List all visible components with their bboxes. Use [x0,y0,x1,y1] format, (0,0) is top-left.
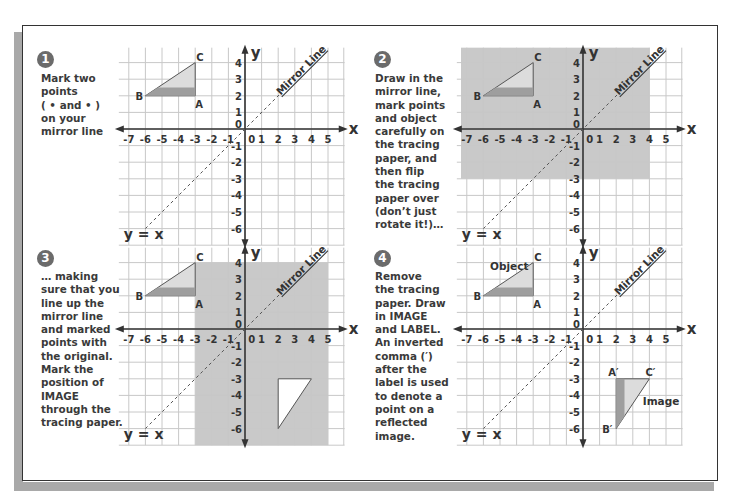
x-tick-label: -6 [140,134,151,145]
vertex-label-c: C [196,252,203,263]
x-tick-label: 4 [308,134,315,145]
x-tick-label: 1 [596,334,603,345]
y-tick-label: -2 [231,157,242,168]
x-tick-label: 0 [586,334,593,345]
y-tick-label: -2 [569,357,580,368]
y-tick-label: 4 [235,58,242,69]
y-axis-arrow-up-icon [242,245,249,254]
x-tick-label: 3 [629,334,636,345]
x-axis-arrow-left-icon [115,326,124,333]
x-tick-label: 4 [646,334,653,345]
x-tick-label: -4 [511,334,522,345]
panel-2: 2 Draw in the mirror line, mark points a… [360,26,698,250]
y-tick-label: 4 [573,258,580,269]
x-axis-label: x [687,120,697,138]
vertex-label-b: B [135,291,143,302]
vertex-label-a: A [195,99,203,110]
vertex-label-c: C [196,52,203,63]
vertex-label-b: B [473,291,481,302]
y-tick-label: -4 [569,190,580,201]
y-tick-label: 2 [235,291,242,302]
x-tick-label: -7 [461,134,472,145]
x-tick-label: 2 [613,334,620,345]
x-tick-label: 2 [275,334,282,345]
x-tick-label: -2 [544,334,555,345]
y-tick-label: -5 [231,207,242,218]
coordinate-graph: xy-7-6-5-4-3-2-101234543210-1-2-3-4-5-6M… [22,226,360,450]
y-axis-label: y [589,44,599,62]
equation-label: y = x [462,426,502,442]
y-tick-label: -4 [231,190,242,201]
x-tick-label: 0 [248,134,255,145]
x-tick-label: 2 [275,134,282,145]
vertex-label-b: B [135,91,143,102]
y-tick-label: -3 [569,174,580,185]
y-tick-label: -3 [231,374,242,385]
x-tick-label: -3 [190,334,201,345]
x-tick-label: -4 [173,334,184,345]
object-triangle-shading [145,288,195,296]
vertex-label-b: B [473,91,481,102]
x-tick-label: -3 [190,134,201,145]
y-tick-label: -3 [231,174,242,185]
y-tick-label: 0 [573,319,580,330]
y-tick-label: -3 [569,374,580,385]
x-tick-label: -7 [123,334,134,345]
x-tick-label: -3 [528,134,539,145]
y-tick-label: 1 [573,107,580,118]
y-tick-label: 1 [235,107,242,118]
y-tick-label: 0 [573,119,580,130]
vertex-label-c: C [534,252,541,263]
vertex-label-a: A [533,99,541,110]
y-tick-label: 0 [235,119,242,130]
y-tick-label: -2 [569,157,580,168]
x-tick-label: -4 [511,134,522,145]
x-tick-label: 4 [646,134,653,145]
x-tick-label: 3 [291,334,298,345]
x-tick-label: 1 [258,134,265,145]
equation-label: y = x [124,426,164,442]
y-tick-label: -1 [231,341,242,352]
y-tick-label: 4 [573,58,580,69]
y-tick-label: -1 [569,141,580,152]
y-tick-label: 2 [573,291,580,302]
panel-3: 3 … making sure that you line up the mir… [22,250,360,474]
y-tick-label: 3 [573,274,580,285]
y-tick-label: -6 [231,424,242,435]
frame-shadow-bottom [14,482,714,491]
x-tick-label: 5 [663,134,670,145]
x-tick-label: 2 [613,134,620,145]
y-tick-label: -4 [231,390,242,401]
mirror-line-label: Mirror Line [274,43,329,98]
y-tick-label: 4 [235,258,242,269]
x-tick-label: -6 [478,134,489,145]
x-tick-label: 1 [596,134,603,145]
y-tick-label: -4 [569,390,580,401]
object-triangle-shading [145,88,195,96]
y-tick-label: 3 [235,74,242,85]
y-axis-label: y [589,244,599,262]
y-tick-label: 0 [235,319,242,330]
y-tick-label: -1 [569,341,580,352]
x-tick-label: -6 [478,334,489,345]
y-tick-label: 1 [573,307,580,318]
panel-1: 1 Mark two points ( • and • ) on your mi… [22,26,360,250]
y-tick-label: -6 [569,424,580,435]
x-axis-arrow-left-icon [453,326,462,333]
mirror-line-label: Mirror Line [612,243,667,298]
y-axis-label: y [251,244,261,262]
x-tick-label: -5 [156,334,167,345]
y-axis-label: y [251,44,261,62]
y-tick-label: -5 [569,207,580,218]
x-tick-label: 5 [325,334,332,345]
vertex-label-c-prime: C′ [645,367,655,378]
vertex-label-a: A [195,299,203,310]
vertex-label-a: A [533,299,541,310]
x-tick-label: -6 [140,334,151,345]
x-tick-label: 4 [308,334,315,345]
y-tick-label: -5 [569,407,580,418]
x-tick-label: -2 [206,134,217,145]
x-tick-label: 0 [586,134,593,145]
y-tick-label: 1 [235,307,242,318]
x-tick-label: 0 [248,334,255,345]
